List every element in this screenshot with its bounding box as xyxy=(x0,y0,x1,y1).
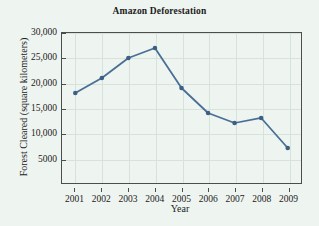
y-axis-tick-label: 30,000 xyxy=(1,27,57,37)
y-axis-tick-labels: 500010,00015,00020,00025,00030,000 xyxy=(0,32,57,184)
x-axis-title: Year xyxy=(55,203,305,214)
data-point-marker xyxy=(73,91,78,96)
y-axis-tick-mark xyxy=(62,134,66,135)
y-axis-tick-mark xyxy=(62,109,66,110)
data-point-marker xyxy=(126,56,131,61)
data-point-marker xyxy=(179,86,184,91)
x-axis-tick-mark xyxy=(208,188,209,192)
chart-title: Amazon Deforestation xyxy=(0,6,319,16)
plot-area xyxy=(61,32,302,184)
y-axis-tick-label: 5000 xyxy=(1,154,57,164)
data-series-line xyxy=(62,33,301,183)
x-axis-tick-mark xyxy=(128,188,129,192)
y-axis-tick-mark xyxy=(62,160,66,161)
x-axis-tick-labels: 200120022003200420052006200720082009 xyxy=(61,188,302,202)
x-axis-tick-mark xyxy=(101,188,102,192)
x-axis-tick-mark xyxy=(155,188,156,192)
y-axis-tick-label: 20,000 xyxy=(1,78,57,88)
y-axis-tick-label: 10,000 xyxy=(1,128,57,138)
y-axis-tick-mark xyxy=(62,33,66,34)
x-axis-tick-mark xyxy=(262,188,263,192)
y-axis-tick-label: 25,000 xyxy=(1,52,57,62)
series-line xyxy=(75,48,287,148)
y-axis-tick-label: 15,000 xyxy=(1,103,57,113)
x-axis-tick-mark xyxy=(235,188,236,192)
data-point-marker xyxy=(232,121,237,126)
data-point-marker xyxy=(259,116,264,121)
data-point-marker xyxy=(206,111,211,116)
data-point-marker xyxy=(285,146,290,151)
x-axis-tick-mark xyxy=(74,188,75,192)
y-axis-tick-mark xyxy=(62,84,66,85)
x-axis-tick-mark xyxy=(289,188,290,192)
data-point-marker xyxy=(100,76,105,81)
data-point-marker xyxy=(153,46,158,51)
x-axis-tick-mark xyxy=(182,188,183,192)
chart-container: Amazon Deforestation Forest Cleared (squ… xyxy=(0,0,319,226)
y-axis-tick-mark xyxy=(62,58,66,59)
